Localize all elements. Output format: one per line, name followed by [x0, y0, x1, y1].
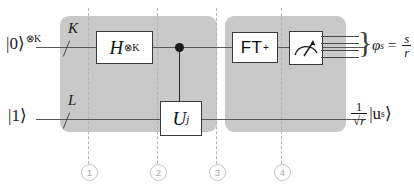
classical-wire-2: [321, 43, 359, 44]
time-slice-guide-1: [88, 8, 89, 164]
state-fraction: 1 √r: [351, 100, 367, 128]
phase-subscript: s: [380, 41, 384, 51]
inverse-fourier-transform-gate[interactable]: FT+: [232, 32, 278, 63]
radicand: r: [360, 113, 365, 128]
hadamard-gate-exponent: ⊗K: [124, 42, 139, 53]
time-marker-4: 4: [274, 164, 291, 181]
controlled-u-gate-label: U: [173, 108, 187, 130]
input-ket-zero-exponent: ⊗K: [26, 33, 41, 44]
state-ket-close: ⟩: [385, 103, 392, 124]
wire-multiplicity-k: K: [68, 20, 78, 37]
state-numerator: 1: [354, 100, 365, 113]
time-marker-1: 1: [81, 164, 98, 181]
input-ket-one-label: |1⟩: [8, 106, 27, 125]
classical-wire-3: [321, 50, 359, 51]
hadamard-gate-label: H: [110, 37, 124, 59]
time-slice-guide-2: [157, 8, 158, 164]
input-ket-one: |1⟩: [8, 105, 27, 126]
meter-icon: [291, 33, 321, 63]
time-slice-guide-3: [216, 8, 217, 164]
time-marker-2: 2: [150, 164, 167, 181]
quantum-circuit-diagram: |0⟩⊗K |1⟩ K L H⊗K Uj FT+ } φs = s r 1: [0, 0, 414, 194]
inverse-fourier-transform-gate-label: FT: [241, 38, 262, 58]
state-ket-open: |u: [369, 104, 381, 124]
input-ket-zero: |0⟩⊗K: [6, 33, 41, 54]
inverse-fourier-transform-gate-exponent: +: [263, 42, 269, 53]
controlled-u-gate[interactable]: Uj: [160, 101, 202, 136]
phase-symbol: φ: [372, 37, 380, 54]
wire-multiplicity-l: L: [68, 92, 76, 109]
phase-fraction: s r: [402, 32, 411, 60]
input-ket-zero-label: |0⟩: [6, 34, 25, 53]
control-dot: [175, 43, 184, 52]
hadamard-gate[interactable]: H⊗K: [96, 31, 153, 64]
phase-equals: =: [387, 37, 397, 54]
measurement-gate[interactable]: [289, 31, 323, 65]
time-marker-3: 3: [209, 164, 226, 181]
phase-denominator: r: [402, 45, 411, 59]
phase-numerator: s: [402, 32, 411, 45]
controlled-u-gate-exponent: j: [186, 113, 189, 125]
state-denominator: √r: [351, 113, 367, 127]
time-slice-guide-4: [281, 8, 282, 164]
classical-wire-4: [321, 57, 359, 58]
output-brace: }: [358, 27, 372, 57]
output-phase-expression: φs = s r: [372, 32, 413, 60]
control-link-line: [179, 47, 180, 102]
output-state-expression: 1 √r |us⟩: [349, 100, 392, 128]
classical-wire-1: [321, 36, 359, 37]
